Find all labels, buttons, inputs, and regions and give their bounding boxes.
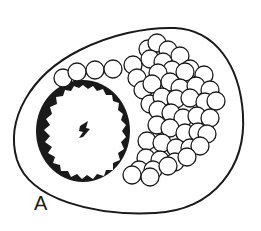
vesicle	[68, 63, 86, 81]
panel-label: A	[34, 193, 47, 213]
vesicle	[104, 60, 122, 78]
vesicle	[159, 157, 177, 175]
vesicle	[178, 148, 196, 166]
vesicle	[207, 92, 225, 110]
vesicle	[86, 61, 104, 79]
nucleus	[36, 80, 130, 182]
vesicle	[141, 168, 159, 186]
vesicle	[123, 166, 141, 184]
